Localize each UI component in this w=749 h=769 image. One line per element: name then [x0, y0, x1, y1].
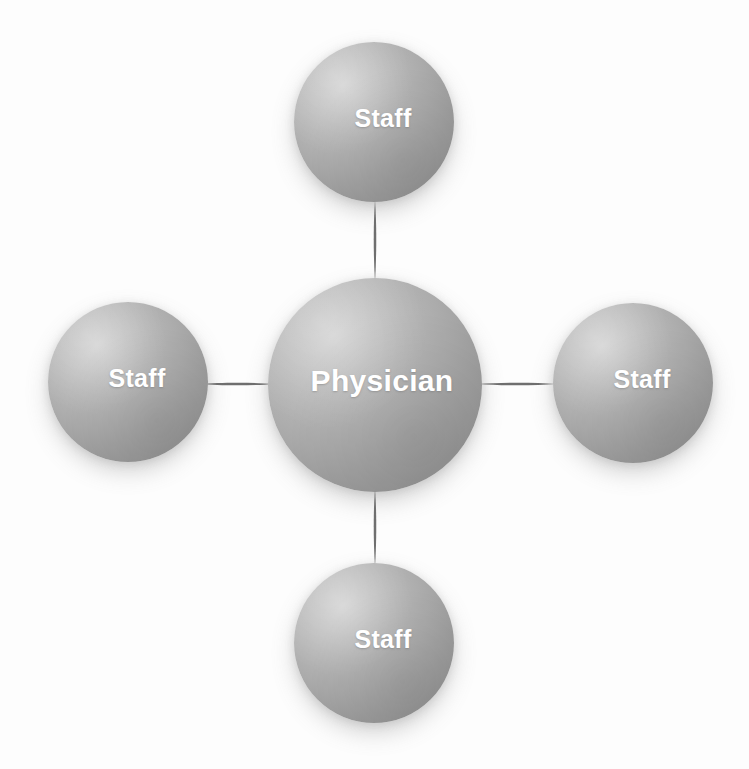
connector-physician-to-staff-bottom: [369, 489, 381, 567]
node-staff-left[interactable]: Staff: [48, 302, 208, 462]
node-staff-right[interactable]: Staff: [553, 303, 713, 463]
node-staff-top[interactable]: Staff: [294, 42, 454, 202]
node-label-staff-left: Staff: [108, 364, 165, 393]
connector-physician-to-staff-top: [369, 200, 381, 282]
connector-physician-to-staff-right: [478, 378, 556, 390]
node-label-staff-top: Staff: [354, 104, 411, 133]
connector-physician-to-staff-left: [200, 378, 274, 390]
node-staff-bottom[interactable]: Staff: [294, 563, 454, 723]
node-label-staff-bottom: Staff: [354, 625, 411, 654]
node-label-physician: Physician: [311, 364, 454, 398]
node-physician[interactable]: Physician: [268, 278, 482, 492]
diagram-canvas: Staff Staff Physician Staff Staff: [0, 0, 749, 769]
node-label-staff-right: Staff: [613, 365, 670, 394]
